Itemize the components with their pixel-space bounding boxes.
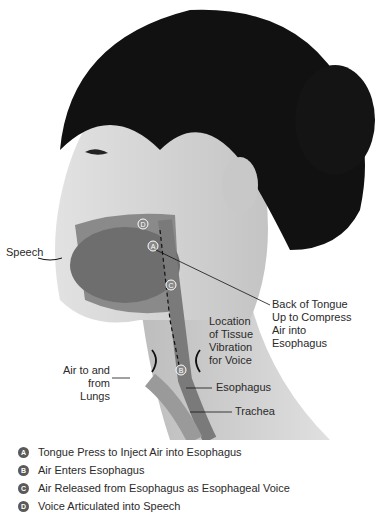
- label-speech: Speech: [6, 246, 43, 259]
- marker-a: A: [148, 241, 158, 251]
- legend-item-d: D Voice Articulated into Speech: [6, 497, 376, 515]
- head-neck-illustration: D A C B: [0, 0, 379, 440]
- svg-text:C: C: [168, 282, 173, 289]
- marker-b: B: [176, 365, 186, 375]
- legend-item-a: A Tongue Press to Inject Air into Esopha…: [6, 443, 376, 461]
- svg-text:A: A: [151, 243, 156, 250]
- label-esophagus: Esophagus: [216, 381, 271, 394]
- hair-bun: [295, 65, 375, 175]
- legend-item-c: C Air Released from Esophagus as Esophag…: [6, 479, 376, 497]
- marker-c: C: [166, 280, 176, 290]
- marker-a-icon: A: [18, 447, 29, 458]
- marker-c-icon: C: [18, 483, 29, 494]
- legend-item-b: B Air Enters Esophagus: [6, 461, 376, 479]
- ear: [222, 157, 258, 213]
- legend: A Tongue Press to Inject Air into Esopha…: [6, 443, 376, 515]
- label-back-of-tongue: Back of Tongue Up to Compress Air into E…: [272, 298, 351, 350]
- svg-text:D: D: [140, 221, 145, 228]
- marker-d: D: [138, 219, 148, 229]
- label-trachea: Trachea: [235, 405, 275, 418]
- marker-d-icon: D: [18, 501, 29, 512]
- svg-text:B: B: [179, 367, 184, 374]
- marker-b-icon: B: [18, 465, 29, 476]
- label-air-lungs: Air to and from Lungs: [58, 364, 110, 403]
- label-tissue-vibration: Location of Tissue Vibration for Voice: [209, 315, 253, 367]
